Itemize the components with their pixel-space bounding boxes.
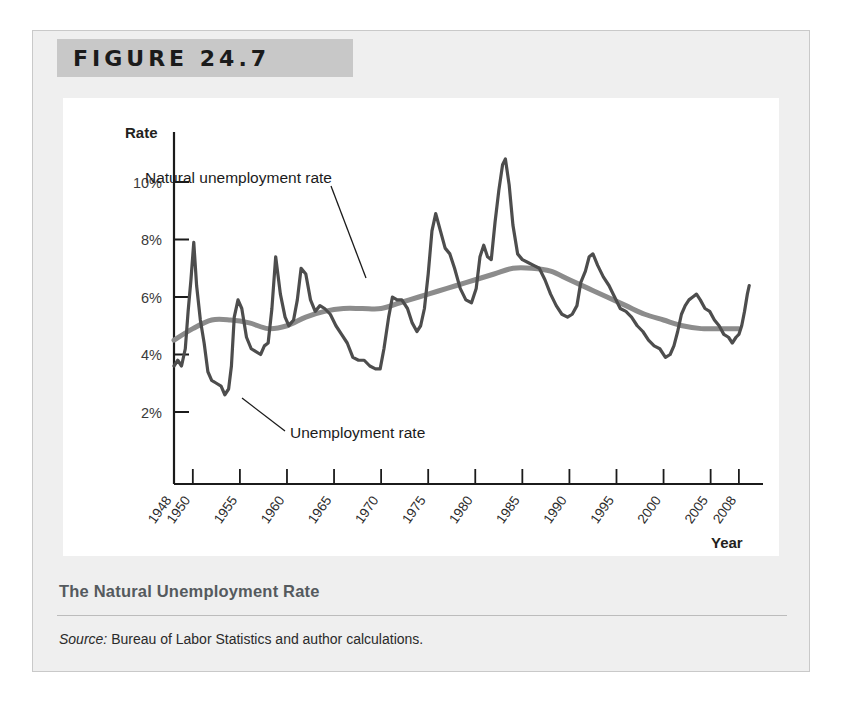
unemployment-chart: 2%4%6%8%10% 1948195019551960196519701975…	[63, 98, 779, 556]
source-text: Bureau of Labor Statistics and author ca…	[107, 631, 423, 647]
figure-source-note: Source: Bureau of Labor Statistics and a…	[59, 631, 423, 647]
figure-page: FIGURE 24.7 2%4%6%8%10% 1948195019551960…	[0, 0, 843, 714]
y-axis-ticks	[174, 182, 189, 412]
x-axis-title: Year	[711, 534, 743, 551]
y-tick-label: 6%	[141, 290, 162, 306]
x-tick-label: 2000	[634, 493, 664, 526]
figure-caption-title: The Natural Unemployment Rate	[59, 582, 320, 601]
figure-panel: FIGURE 24.7 2%4%6%8%10% 1948195019551960…	[32, 30, 810, 672]
chart-canvas: 2%4%6%8%10% 1948195019551960196519701975…	[63, 98, 779, 556]
x-tick-label: 1965	[305, 493, 335, 526]
x-tick-label: 1970	[352, 493, 382, 526]
annotation-natural-unemployment-rate: Natural unemployment rate	[145, 169, 332, 186]
y-tick-label: 4%	[141, 347, 162, 363]
annotation-unemployment-rate: Unemployment rate	[290, 424, 425, 441]
y-tick-label: 8%	[141, 232, 162, 248]
x-tick-label: 1955	[211, 493, 241, 526]
x-tick-label: 2008	[710, 493, 740, 526]
x-tick-label: 2005	[682, 493, 712, 526]
x-tick-label: 1990	[540, 493, 570, 526]
unemployment-rate-leader-line	[242, 398, 285, 431]
x-tick-label: 1980	[446, 493, 476, 526]
x-tick-label: 1960	[258, 493, 288, 526]
unemployment-rate-line	[174, 159, 749, 395]
x-axis-tick-labels: 1948195019551960196519701975198019851990…	[145, 493, 739, 526]
y-axis-title: Rate	[125, 124, 158, 141]
y-axis-tick-labels: 2%4%6%8%10%	[133, 175, 162, 421]
x-axis-ticks	[174, 469, 739, 484]
y-tick-label: 2%	[141, 405, 162, 421]
source-label: Source:	[59, 631, 107, 647]
figure-number-label: FIGURE 24.7	[57, 46, 270, 71]
x-tick-label: 1995	[587, 493, 617, 526]
caption-divider	[57, 615, 787, 616]
natural-rate-leader-line	[331, 186, 366, 278]
x-tick-label: 1985	[493, 493, 523, 526]
x-tick-label: 1975	[399, 493, 429, 526]
figure-header-band: FIGURE 24.7	[57, 39, 353, 77]
